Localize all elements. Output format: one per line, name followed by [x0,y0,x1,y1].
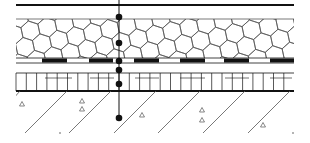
measurement-dot [116,67,123,74]
hexagon-insulation-layer [0,0,310,143]
section-drawing [0,0,310,143]
measurement-dot [116,14,123,21]
concrete-slab-layer [12,91,290,133]
measurement-dot [116,81,123,88]
dashed-strip-layer [16,58,294,63]
grid-layer [16,73,294,91]
measurement-dot [116,40,123,47]
section-svg [0,0,310,143]
measurement-dot [116,115,123,122]
measurement-line [116,0,123,121]
measurement-dot [116,58,123,65]
